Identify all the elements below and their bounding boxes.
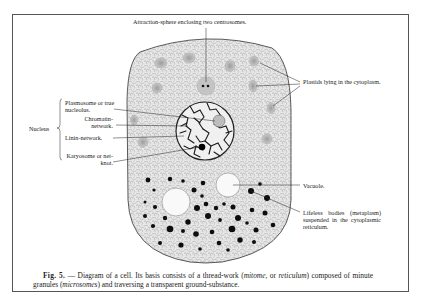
figure-caption: Fig. 5. — Diagram of a cell. Its basis c… <box>33 271 373 289</box>
label-plasmosome: Plasmosome or true nucleolus. <box>65 99 117 113</box>
label-plastids: Plastids lying in the cytoplasm. <box>303 78 381 85</box>
vacuole-large <box>162 188 190 216</box>
label-chromatin: Chromatin-network. <box>63 115 113 129</box>
label-attraction-sphere: Attraction-sphere enclosing two centroso… <box>133 18 293 25</box>
nucleus <box>176 102 234 160</box>
label-nucleus: Nucleus <box>29 125 49 132</box>
label-karyosome: Karyosome or net-knot. <box>63 152 113 166</box>
label-vacuole: Vacuole. <box>303 182 324 189</box>
label-lifeless-bodies: Lifeless bodies (metaplasm) suspended in… <box>303 209 381 230</box>
label-linin: Linin-network. <box>65 134 117 141</box>
figure-number: Fig. 5. <box>43 271 65 280</box>
